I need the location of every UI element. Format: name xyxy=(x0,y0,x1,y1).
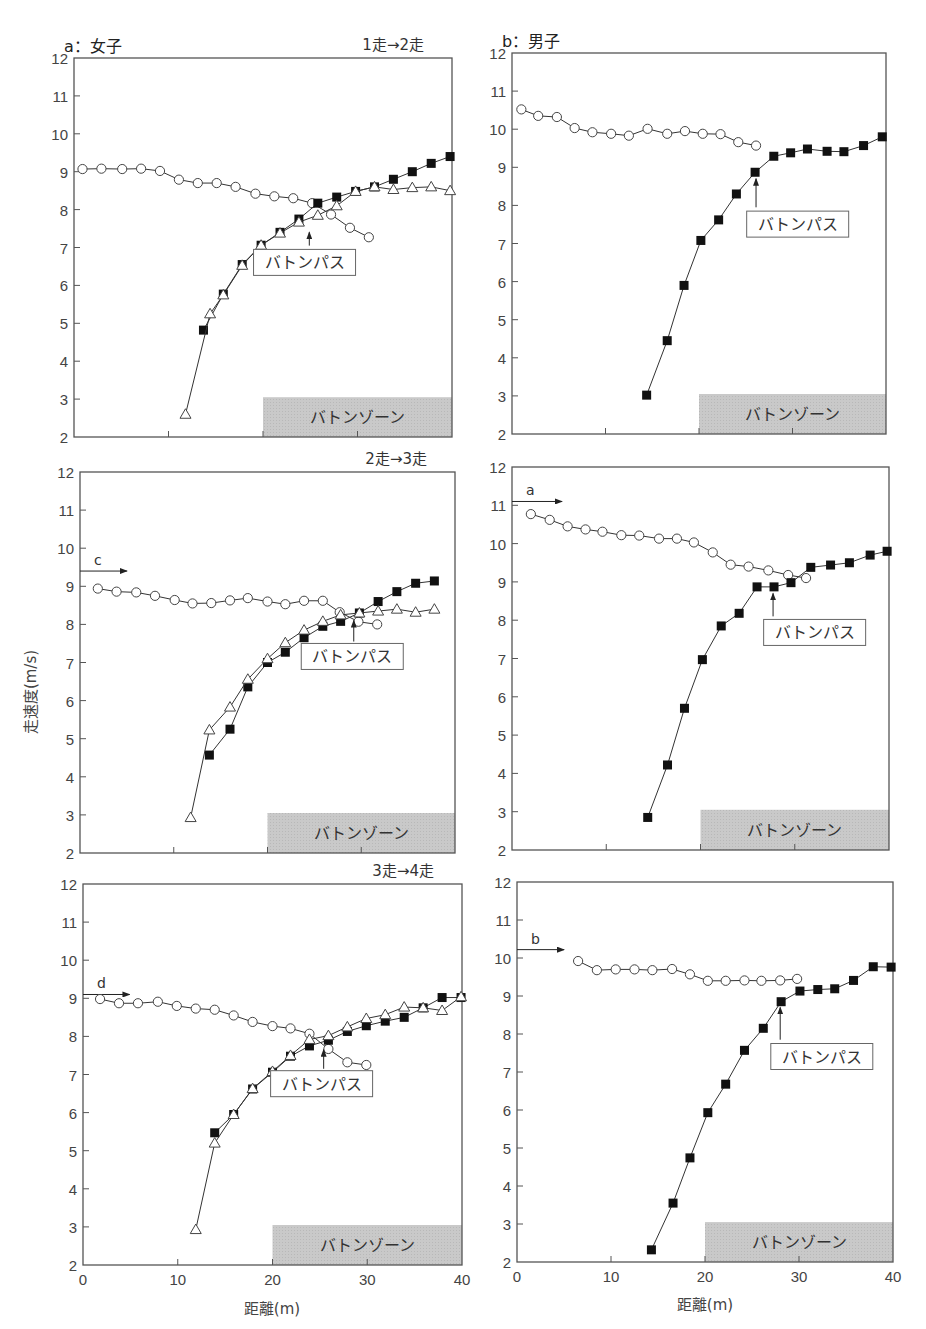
x-axis-label-left: 距離(m) xyxy=(244,1300,300,1318)
circle-marker xyxy=(286,1024,295,1033)
series-line xyxy=(647,137,883,395)
reference-label: d xyxy=(97,975,106,991)
y-tick-label: 6 xyxy=(498,274,506,291)
circle-marker xyxy=(764,566,773,575)
square-marker xyxy=(887,963,896,972)
triangle-marker xyxy=(331,200,342,210)
circle-marker xyxy=(133,999,142,1008)
circle-marker xyxy=(654,534,663,543)
y-tick-label: 11 xyxy=(495,912,511,929)
square-marker xyxy=(732,189,741,198)
circle-marker xyxy=(581,525,590,534)
square-marker xyxy=(759,1024,768,1033)
y-tick-label: 11 xyxy=(490,83,506,100)
circle-marker xyxy=(251,189,260,198)
y-tick-label: 8 xyxy=(69,1028,77,1045)
square-marker xyxy=(438,993,447,1002)
circle-marker xyxy=(663,129,672,138)
y-tick-label: 2 xyxy=(498,842,506,859)
y-tick-label: 10 xyxy=(494,950,511,967)
circle-marker xyxy=(326,210,335,219)
y-tick-label: 8 xyxy=(60,202,68,219)
square-marker xyxy=(777,997,786,1006)
square-marker xyxy=(753,582,762,591)
circle-marker xyxy=(343,1058,352,1067)
circle-marker xyxy=(289,194,298,203)
square-marker xyxy=(830,984,839,993)
square-marker xyxy=(642,391,651,400)
y-tick-label: 4 xyxy=(66,769,74,786)
reference-label: a xyxy=(526,482,535,498)
chart-panel-a2: バトンゾーン234567891011122走→3走cバトンパス xyxy=(57,450,455,862)
circle-marker xyxy=(210,1005,219,1014)
square-marker xyxy=(714,215,723,224)
y-tick-label: 10 xyxy=(51,126,68,143)
circle-marker xyxy=(281,600,290,609)
square-marker xyxy=(769,152,778,161)
circle-marker xyxy=(776,976,785,985)
y-tick-label: 10 xyxy=(60,952,77,969)
circle-marker xyxy=(716,130,725,139)
x-tick-label: 0 xyxy=(79,1271,87,1288)
circle-marker xyxy=(191,1004,200,1013)
triangle-marker xyxy=(312,210,323,220)
y-tick-label: 8 xyxy=(498,197,506,214)
circle-marker xyxy=(698,129,707,138)
circle-marker xyxy=(740,976,749,985)
circle-marker xyxy=(153,997,162,1006)
plot-frame xyxy=(517,882,893,1262)
circle-marker xyxy=(268,1022,277,1031)
triangle-marker xyxy=(391,604,402,614)
square-marker xyxy=(313,199,322,208)
y-tick-label: 3 xyxy=(498,388,506,405)
square-marker xyxy=(411,579,420,588)
square-marker xyxy=(226,725,235,734)
y-tick-label: 8 xyxy=(66,616,74,633)
square-marker xyxy=(663,760,672,769)
circle-marker xyxy=(299,596,308,605)
y-tick-label: 6 xyxy=(66,693,74,710)
triangle-marker xyxy=(317,616,328,626)
triangle-marker xyxy=(380,1009,391,1019)
baton-pass-label: バトンパス xyxy=(758,215,838,234)
circle-marker xyxy=(207,598,216,607)
square-marker xyxy=(685,1153,694,1162)
y-tick-label: 4 xyxy=(498,350,506,367)
circle-marker xyxy=(136,164,145,173)
y-tick-label: 10 xyxy=(489,121,506,138)
circle-marker xyxy=(744,562,753,571)
circle-marker xyxy=(362,1060,371,1069)
transfer-label: 1走→2走 xyxy=(362,36,424,54)
square-marker xyxy=(751,168,760,177)
y-tick-label: 11 xyxy=(61,914,77,931)
circle-marker xyxy=(270,192,279,201)
square-marker xyxy=(680,281,689,290)
x-tick-label: 20 xyxy=(264,1271,281,1288)
square-marker xyxy=(806,563,815,572)
y-tick-label: 3 xyxy=(69,1219,77,1236)
triangle-marker xyxy=(180,409,191,419)
y-tick-label: 3 xyxy=(60,391,68,408)
square-marker xyxy=(839,147,848,156)
y-tick-label: 3 xyxy=(498,804,506,821)
square-marker xyxy=(813,985,822,994)
circle-marker xyxy=(607,129,616,138)
circle-marker xyxy=(563,522,572,531)
circle-marker xyxy=(630,965,639,974)
square-marker xyxy=(849,976,858,985)
square-marker xyxy=(883,547,892,556)
circle-marker xyxy=(170,595,179,604)
square-marker xyxy=(869,962,878,971)
chart-panel-a1: バトンゾーン23456789101112a：女子1走→2走バトンパス xyxy=(51,36,455,446)
circle-marker xyxy=(689,538,698,547)
y-tick-label: 12 xyxy=(60,876,77,893)
circle-marker xyxy=(574,956,583,965)
group-title: b：男子 xyxy=(502,32,560,51)
triangle-marker xyxy=(429,604,440,614)
y-tick-label: 5 xyxy=(503,1140,511,1157)
x-tick-label: 0 xyxy=(513,1268,521,1285)
y-tick-label: 5 xyxy=(498,312,506,329)
circle-marker xyxy=(318,596,327,605)
series-line xyxy=(651,967,891,1250)
y-tick-label: 3 xyxy=(503,1216,511,1233)
